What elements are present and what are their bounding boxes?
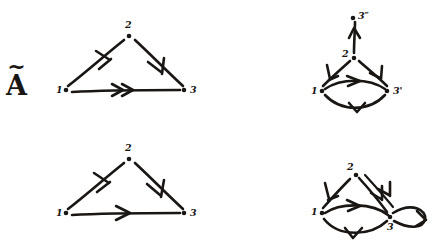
vertex-label-1: 1: [56, 84, 63, 95]
panel-b: 1 2 3 B: [223, 123, 447, 246]
vertex-dot-3prime: [385, 89, 390, 94]
vertex-dot-1: [64, 211, 69, 216]
edge-3prime-to-1-lower: [325, 95, 385, 108]
vertex-dot-2: [352, 56, 357, 61]
vertex-label-2: 2: [124, 142, 132, 153]
vertex-dot-2: [127, 34, 132, 39]
vertex-label-3: 3: [387, 221, 394, 232]
vertex-label-3prime: 3': [393, 85, 403, 96]
vertex-label-3: 3: [190, 207, 197, 218]
panel-a-tilde: 1 2 3 ~A: [0, 0, 223, 123]
vertex-dot-1: [64, 88, 69, 93]
graph-a: 1 2 3: [0, 123, 223, 246]
vertex-label-3: 3: [190, 84, 197, 95]
edge-1-to-2: [68, 40, 124, 86]
panel-a: 1 2 3 A: [0, 123, 223, 246]
vertex-dot-1: [320, 89, 325, 94]
vertex-dot-3: [182, 88, 187, 93]
graph-b-tilde: 1 2 3' 3″: [223, 0, 447, 123]
vertex-dot-2: [354, 173, 359, 178]
arrowhead-2-to-1: [325, 183, 338, 200]
vertex-label-1: 1: [311, 206, 318, 217]
edge-3-to-1-lower: [324, 219, 387, 233]
panel-label-a-tilde: ~A: [6, 72, 27, 99]
vertex-label-2: 2: [124, 19, 132, 30]
vertex-dot-2: [127, 157, 132, 162]
edge-1-to-2: [68, 163, 124, 209]
vertex-dot-1: [320, 211, 325, 216]
vertex-dot-3dprime: [351, 16, 356, 21]
edge-2-to-3: [135, 163, 183, 209]
graph-a-tilde: 1 2 3: [0, 0, 223, 123]
vertex-label-3dprime: 3″: [358, 10, 370, 21]
vertex-label-2: 2: [341, 48, 349, 59]
vertex-dot-3: [182, 211, 187, 216]
graph-b: 1 2 3: [223, 123, 447, 246]
vertex-label-2: 2: [346, 161, 354, 172]
panel-b-tilde: 1 2 3' 3″ ~B: [223, 0, 447, 123]
arrowhead-2-to-3prime: [370, 66, 382, 79]
vertex-dot-3: [388, 215, 393, 220]
vertex-label-1: 1: [56, 207, 63, 218]
edge-2-to-3: [135, 40, 183, 86]
edge-1-to-3: [72, 90, 180, 92]
tilde-accent: ~: [7, 55, 25, 77]
edge-2-to-3dprime: [354, 22, 355, 53]
figure-canvas: 1 2 3 ~A 1 2 3 A: [0, 0, 447, 246]
vertex-label-1: 1: [311, 85, 318, 96]
arrowhead-2-to-3-second: [378, 182, 390, 196]
